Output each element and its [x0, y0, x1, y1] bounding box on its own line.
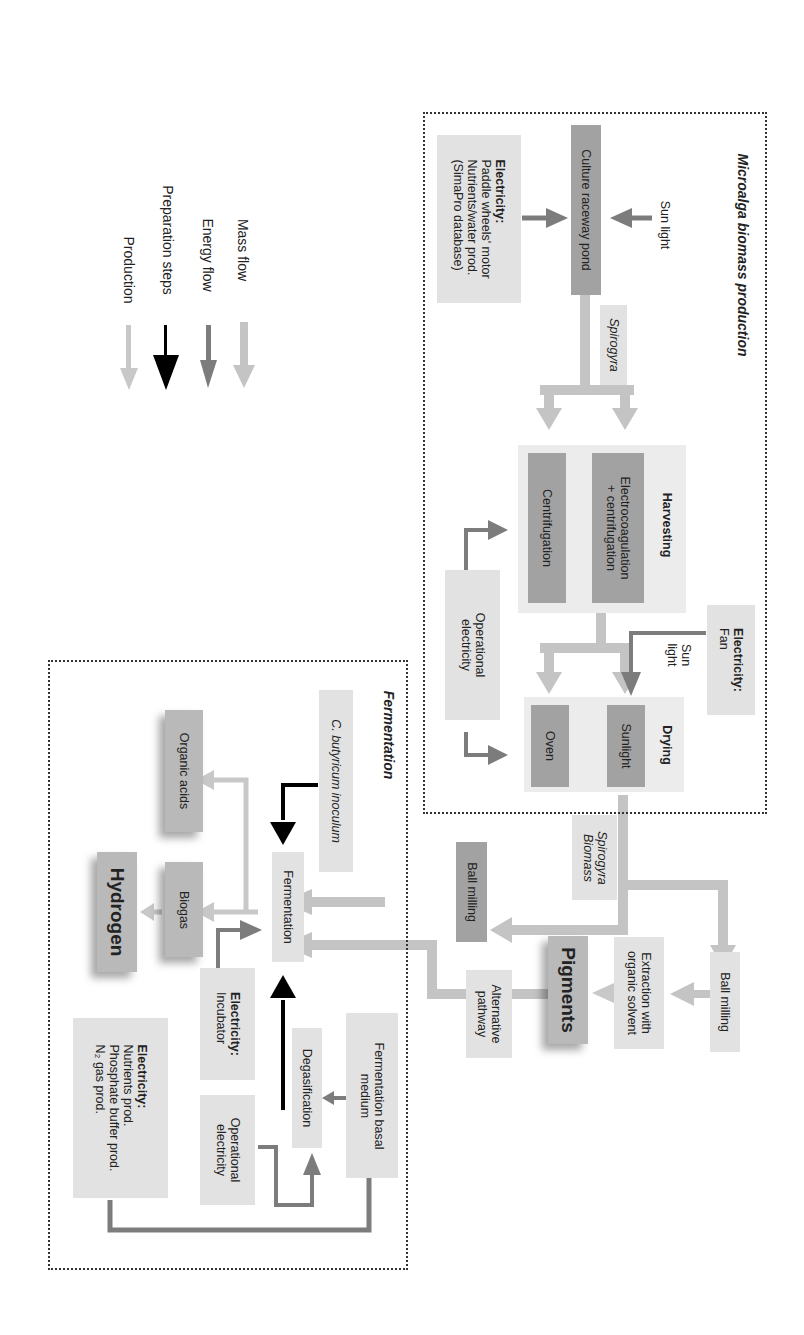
legend-arrows	[120, 322, 255, 390]
hydrogen-product-box: Hydrogen	[97, 852, 137, 972]
basal-medium-box: Fermentation basal medium	[346, 1013, 398, 1178]
centrifugation-box: Centrifugation	[528, 453, 566, 603]
electricity-fan-box: Electricity: Fan	[707, 605, 755, 715]
ball-milling-pigment-box: Ball milling	[710, 952, 740, 1052]
electricity-incubator-box: Electricity: Incubator	[200, 968, 255, 1080]
sun-light-label: Sun light	[655, 195, 675, 255]
degasification-box: Degasification	[292, 1028, 322, 1148]
spirogyra-biomass-label: Spirogyra Biomass	[572, 815, 617, 900]
legend-production: Production	[118, 225, 140, 315]
harvesting-title: Harvesting	[656, 470, 678, 580]
electricity-production-box: Electricity: Nutrients prod. Phosphate b…	[73, 1018, 168, 1198]
inoculum-box: C. butyricum inoculum	[319, 690, 353, 872]
drying-title: Drying	[656, 712, 678, 777]
culture-raceway-pond-box: Culture raceway pond	[571, 125, 601, 295]
alternative-pathway-box: Alternative pathway	[466, 970, 512, 1058]
microalga-title: Microalga biomass production	[733, 125, 753, 385]
oven-box: Oven	[531, 705, 569, 787]
fermentation-title: Fermentation	[378, 680, 400, 790]
sunlight-box: Sunlight	[607, 705, 645, 787]
organic-acids-box: Organic acids	[165, 710, 203, 832]
biogas-box: Biogas	[165, 862, 203, 957]
sun-light-drying-label: Sun light	[663, 635, 695, 675]
electrocoagulation-box: Electrocoagulation + centrifugation	[592, 453, 644, 603]
pigments-product-box: Pigments	[548, 936, 588, 1044]
ball-milling-fermentation-box: Ball milling	[456, 842, 487, 942]
extraction-box: Extraction with organic solvent	[614, 937, 664, 1049]
fermentation-process-box: Fermentation	[272, 852, 304, 962]
legend-preparation-steps: Preparation steps	[157, 165, 179, 315]
legend-energy-flow: Energy flow	[197, 195, 219, 315]
spirogyra-label: Spirogyra	[600, 305, 627, 385]
legend-mass-flow: Mass flow	[232, 185, 254, 315]
operational-electricity-box: Operational electricity	[445, 570, 500, 720]
electricity-pond-box: Electricity: Paddle wheels' motor Nutrie…	[437, 135, 521, 303]
operational-electricity-fermentation-box: Operational electricity	[200, 1095, 255, 1205]
process-flow-diagram: Mass flow Energy flow Preparation steps …	[0, 0, 804, 1335]
